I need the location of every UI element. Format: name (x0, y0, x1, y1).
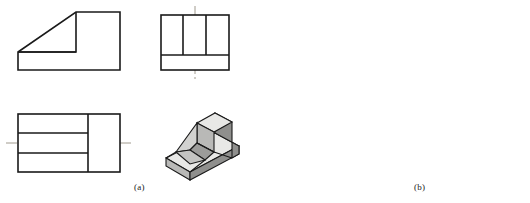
part-a-group (6, 6, 239, 180)
part-b-caption: (b) (414, 182, 425, 192)
part-a-top-view[interactable] (6, 114, 132, 172)
part-a-side-view[interactable] (161, 6, 229, 79)
figure-root: (a) (b) (0, 0, 530, 203)
side-view-outline (161, 15, 229, 70)
engineering-drawing-figure (0, 0, 530, 203)
part-a-caption: (a) (134, 182, 145, 192)
part-a-front-view[interactable] (18, 12, 120, 70)
part-a-isometric-view[interactable] (166, 113, 239, 180)
top-view-outline (18, 114, 120, 172)
front-view-outline (18, 12, 120, 70)
